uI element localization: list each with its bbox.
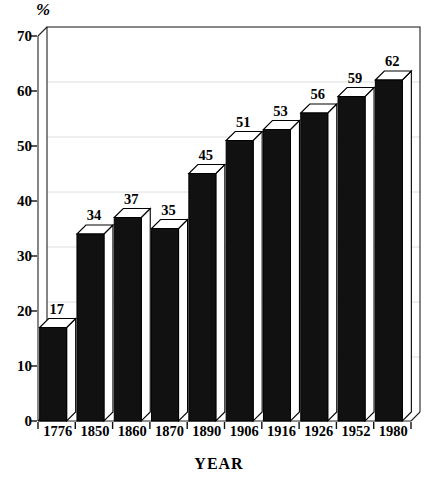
y-axis-tick-label: 20	[6, 304, 32, 319]
x-axis-tick-label: 1916	[267, 424, 296, 439]
bar	[301, 104, 337, 421]
y-axis-tick-label: 0	[6, 414, 32, 429]
bar	[226, 132, 262, 422]
x-axis-tick-label: 1952	[342, 424, 371, 439]
bar	[375, 71, 411, 421]
bars-group	[40, 71, 412, 421]
x-axis-tick-label: 1850	[80, 424, 109, 439]
x-axis-tick-label: 1926	[304, 424, 333, 439]
plot-area	[0, 0, 438, 483]
bar-value-label: 45	[199, 148, 214, 163]
y-axis-tick-label: 70	[6, 29, 32, 44]
y-axis-unit-label: %	[36, 1, 50, 18]
bar	[77, 225, 113, 421]
bar-value-label: 34	[87, 208, 102, 223]
bar-value-label: 59	[348, 71, 363, 86]
y-axis-tick-label: 50	[6, 139, 32, 154]
bar-value-label: 56	[311, 87, 326, 102]
bar	[40, 319, 76, 422]
y-axis-tick-label: 10	[6, 359, 32, 374]
y-axis-tick-label: 60	[6, 84, 32, 99]
bar-value-label: 51	[236, 115, 251, 130]
y-axis-tick-label: 30	[6, 249, 32, 264]
bar	[114, 209, 150, 422]
bar-value-label: 62	[385, 54, 400, 69]
bar	[338, 88, 374, 422]
x-axis-tick-label: 1860	[118, 424, 147, 439]
y-axis-tick-label: 40	[6, 194, 32, 209]
bar	[189, 165, 225, 422]
bar	[152, 220, 188, 422]
bar-value-label: 53	[273, 104, 288, 119]
bar-chart: % 010203040506070 1776185018601870189019…	[0, 0, 438, 483]
x-axis-tick-label: 1890	[192, 424, 221, 439]
x-axis-tick-label: 1870	[155, 424, 184, 439]
x-axis-tick-label: 1980	[379, 424, 408, 439]
bar	[263, 121, 299, 422]
bar-value-label: 17	[49, 302, 64, 317]
bar-value-label: 37	[124, 192, 139, 207]
x-axis-title: YEAR	[0, 455, 438, 473]
bar-value-label: 35	[161, 203, 176, 218]
x-axis-tick-label: 1776	[43, 424, 72, 439]
x-axis-tick-label: 1906	[230, 424, 259, 439]
